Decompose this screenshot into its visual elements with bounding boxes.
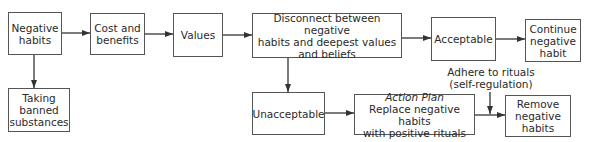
node-text: Values xyxy=(181,29,215,41)
node-action-plan: Action Plan Replace negative habits with… xyxy=(354,94,475,135)
node-text: benefits xyxy=(96,34,138,46)
node-text: Acceptable xyxy=(434,33,492,45)
node-negative-habits: Negative habits xyxy=(8,12,62,55)
node-taking-banned-substances: Taking banned substances xyxy=(8,88,70,132)
node-text: Unacceptable xyxy=(252,108,324,120)
annotation-adhere-to-rituals: Adhere to rituals (self-regulation) xyxy=(440,66,542,90)
node-text: negative xyxy=(515,110,561,122)
node-unacceptable: Unacceptable xyxy=(252,92,325,135)
node-text: Disconnect between negative xyxy=(255,12,399,36)
annotation-text: (self-regulation) xyxy=(440,78,542,90)
node-text: habits xyxy=(522,122,554,134)
node-values: Values xyxy=(173,13,223,57)
node-text: and beliefs xyxy=(298,48,356,60)
node-text: Replace negative habits xyxy=(357,103,472,127)
node-remove-negative-habits: Remove negative habits xyxy=(505,95,571,137)
node-text: Negative xyxy=(11,22,58,34)
node-text: Remove xyxy=(517,98,560,110)
node-text: Cost and xyxy=(94,22,140,34)
node-text: substances xyxy=(9,116,68,128)
node-continue-negative-habit: Continue negative habit xyxy=(525,19,581,62)
node-text: Taking xyxy=(22,92,55,104)
node-acceptable: Acceptable xyxy=(431,17,496,61)
node-title: Action Plan xyxy=(385,91,444,103)
node-text: habits xyxy=(19,34,51,46)
node-cost-and-benefits: Cost and benefits xyxy=(90,13,145,55)
node-text: habit xyxy=(540,47,567,59)
node-text: negative xyxy=(530,35,576,47)
annotation-text: Adhere to rituals xyxy=(440,66,542,78)
node-text: Continue xyxy=(529,23,576,35)
node-disconnect: Disconnect between negative habits and d… xyxy=(252,13,402,58)
node-text: habits and deepest values xyxy=(258,36,396,48)
node-text: with positive rituals xyxy=(363,127,466,139)
node-text: banned xyxy=(19,104,59,116)
